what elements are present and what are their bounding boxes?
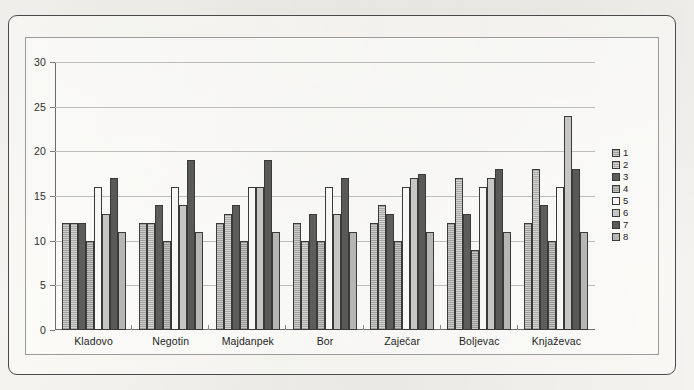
bar-group [132,62,209,330]
bar [147,223,155,330]
legend-item[interactable]: 4 [612,184,628,194]
y-axis-tick-label: 15 [34,190,46,202]
bar [532,169,540,330]
y-axis-tick-label: 30 [34,56,46,68]
bar [471,250,479,330]
legend-swatch-icon [612,185,620,193]
bar [386,214,394,330]
bar [102,214,110,330]
bar [272,232,280,330]
bar [171,187,179,330]
bar [580,232,588,330]
bar [70,223,78,330]
legend-label: 3 [623,172,628,182]
bar [62,223,70,330]
bar-group [209,62,286,330]
legend-item[interactable]: 5 [612,196,628,206]
bar [187,160,195,330]
bar [378,205,386,330]
bar-chart: 051015202530 KladovoNegotinMajdanpekBorZ… [0,0,694,390]
bar [341,178,349,330]
legend-label: 5 [623,196,628,206]
legend-swatch-icon [612,161,620,169]
legend-swatch-icon [612,233,620,241]
bar [301,241,309,330]
bar [293,223,301,330]
bar-group [55,62,132,330]
bar [503,232,511,330]
x-axis-category-label: Bor [286,335,363,347]
bar [86,241,94,330]
legend-item[interactable]: 3 [612,172,628,182]
bar [548,241,556,330]
bar [94,187,102,330]
bar [195,232,203,330]
bar [325,187,333,330]
y-axis-tick-label: 5 [40,279,46,291]
bar [572,169,580,330]
legend-item[interactable]: 1 [612,148,628,158]
y-axis-tick-label: 10 [34,235,46,247]
legend-label: 2 [623,160,628,170]
legend-label: 4 [623,184,628,194]
legend-swatch-icon [612,221,620,229]
bar [540,205,548,330]
legend-swatch-icon [612,173,620,181]
x-axis-category-label: Zaječar [364,335,441,347]
legend-item[interactable]: 6 [612,208,628,218]
legend-label: 7 [623,220,628,230]
bar-group [286,62,363,330]
bar [349,232,357,330]
y-axis-tick [50,330,55,331]
bar [317,241,325,330]
bar [495,169,503,330]
bar [216,223,224,330]
legend-item[interactable]: 7 [612,220,628,230]
plot-area: 051015202530 [55,62,595,330]
bar [333,214,341,330]
bar [110,178,118,330]
bar-group [518,62,595,330]
bar [410,178,418,330]
bar [248,187,256,330]
bar [155,205,163,330]
y-axis-tick-label: 25 [34,101,46,113]
bar [309,214,317,330]
bar [370,223,378,330]
x-axis-category-label: Boljevac [441,335,518,347]
bar [402,187,410,330]
bar [556,187,564,330]
bar [179,205,187,330]
legend-swatch-icon [612,197,620,205]
legend-item[interactable]: 2 [612,160,628,170]
bar [264,160,272,330]
legend-item[interactable]: 8 [612,232,628,242]
bar [139,223,147,330]
y-axis-tick-label: 0 [40,324,46,336]
legend-label: 8 [623,232,628,242]
bar [256,187,264,330]
bar [240,241,248,330]
bar [447,223,455,330]
x-axis-category-label: Majdanpek [209,335,286,347]
x-axis-category-label: Kladovo [55,335,132,347]
chart-legend: 12345678 [612,148,628,242]
bar [487,178,495,330]
bar [78,223,86,330]
x-axis-category-label: Knjaževac [518,335,595,347]
bar-groups [55,62,595,330]
legend-label: 6 [623,208,628,218]
legend-swatch-icon [612,149,620,157]
legend-label: 1 [623,148,628,158]
bar [224,214,232,330]
bar-group [441,62,518,330]
x-axis-category-label: Negotin [132,335,209,347]
bar [232,205,240,330]
bar [394,241,402,330]
bar [426,232,434,330]
bar [479,187,487,330]
legend-swatch-icon [612,209,620,217]
bar [163,241,171,330]
bar [524,223,532,330]
bar [455,178,463,330]
